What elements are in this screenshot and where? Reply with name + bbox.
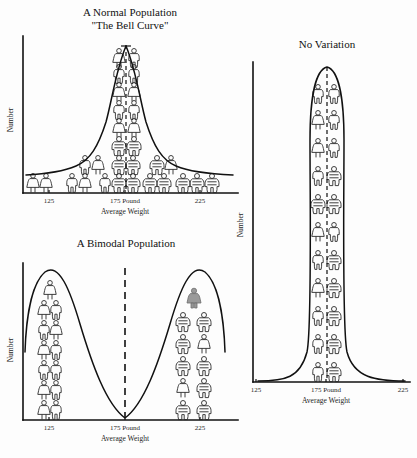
panel-no-variation-title: No Variation: [299, 38, 356, 50]
panel-bimodal-title: A Bimodal Population: [77, 237, 176, 249]
panel-no-variation-tick-label-125: 125: [251, 386, 262, 394]
figure-root: A Normal Population "The Bell Curve" Num…: [0, 0, 417, 458]
panel-normal-tick-label-125: 125: [44, 197, 55, 205]
panel-no-variation-stack: [311, 85, 341, 382]
panel-bimodal-x-axis-label: Average Weight: [101, 434, 150, 443]
panel-normal-y-axis-label: Number: [6, 107, 15, 132]
panel-bimodal-tick-label-225: 225: [195, 424, 206, 432]
panel-bimodal-left-stack: [38, 281, 62, 420]
panel-normal-tick-label-225: 225: [195, 197, 206, 205]
panel-normal-tick-label-175: 175 Pound: [110, 197, 141, 205]
highlighted-figure: [187, 288, 201, 308]
panel-normal-title-line2: "The Bell Curve": [92, 19, 169, 31]
distributions-figure: A Normal Population "The Bell Curve" Num…: [0, 0, 417, 458]
panel-no-variation-tick-label-175: 175 Pound: [311, 386, 342, 394]
panel-bimodal-tick-label-125: 125: [44, 424, 55, 432]
panel-no-variation: No Variation Number 125 175 Pound 225 Av…: [236, 38, 410, 405]
panel-normal-x-axis-label: Average Weight: [101, 207, 150, 216]
panel-bimodal-right-stack: [176, 288, 211, 419]
panel-no-variation-x-axis-label: Average Weight: [302, 396, 351, 405]
panel-no-variation-tick-label-225: 225: [398, 386, 409, 394]
panel-bimodal-y-axis-label: Number: [6, 337, 15, 362]
panel-normal-title-line1: A Normal Population: [83, 6, 178, 18]
panel-bimodal-population: A Bimodal Population Number 125 175 Poun…: [6, 237, 238, 443]
panel-bimodal-tick-label-175: 175 Pound: [110, 424, 141, 432]
panel-normal-population: A Normal Population "The Bell Curve" Num…: [6, 6, 238, 216]
panel-no-variation-y-axis-label: Number: [236, 212, 245, 237]
